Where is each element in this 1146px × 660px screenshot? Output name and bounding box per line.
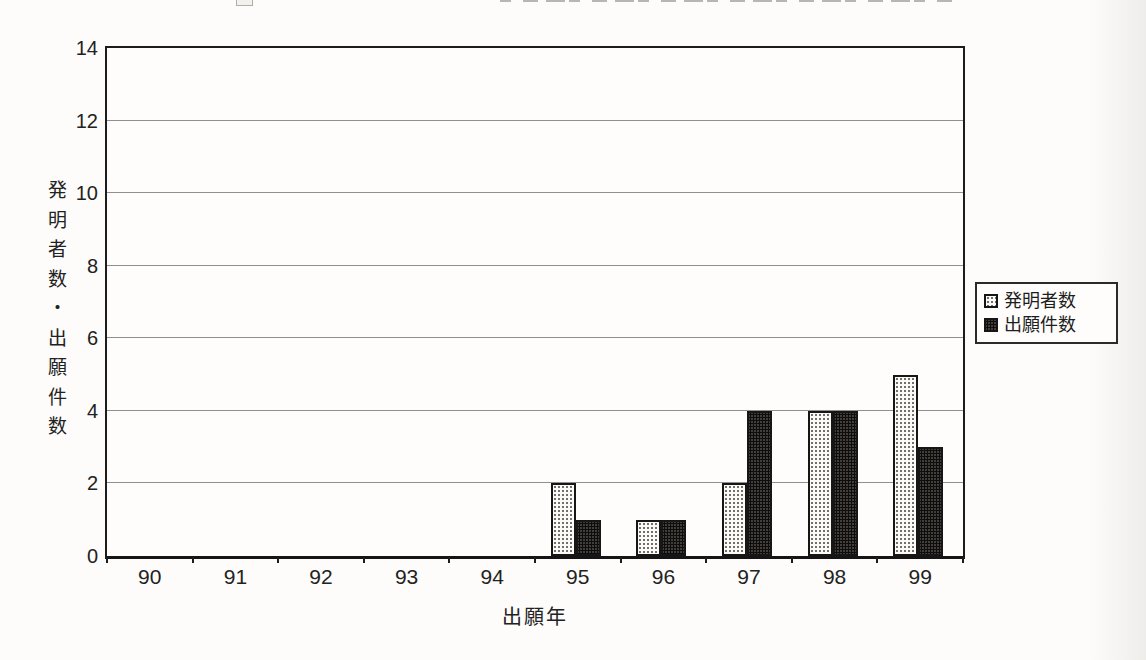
applications-count-bar: [747, 411, 772, 556]
applications-count-bar: [918, 447, 943, 556]
x-axis-tick-label: 90: [107, 564, 193, 590]
cropped-title-remnant-mark: [914, 0, 925, 2]
cropped-title-remnant-mark: [661, 0, 676, 2]
legend-label: 出願件数: [1004, 315, 1076, 335]
y-axis-title-char: 明: [44, 206, 70, 236]
cropped-title-remnant-mark: [684, 0, 703, 2]
x-axis-tick-label: 94: [449, 564, 535, 590]
x-axis-tick: [876, 557, 878, 563]
cropped-title-remnant-mark: [615, 0, 634, 2]
legend-label: 発明者数: [1004, 291, 1076, 311]
cropped-title-remnant-mark: [500, 0, 511, 2]
x-axis-tick: [620, 557, 622, 563]
y-axis-title-char: 願: [44, 353, 70, 383]
y-axis-title-char: ・: [44, 294, 70, 324]
x-axis-title: 出願年: [107, 601, 963, 630]
inventors-count-bar: [808, 411, 833, 556]
x-axis-tick-label: 95: [535, 564, 621, 590]
cropped-title-remnant-mark: [592, 0, 607, 2]
x-axis-tick-label: 99: [877, 564, 963, 590]
legend-item: 発明者数: [984, 291, 1109, 311]
y-axis-tick-label: 14: [40, 36, 98, 60]
gridline: [107, 337, 963, 338]
plot-area: [105, 46, 965, 559]
x-axis-tick: [192, 557, 194, 563]
cropped-title-remnant-mark: [776, 0, 787, 2]
y-axis-title-char: 出: [44, 324, 70, 354]
cropped-title-remnant-box: [236, 0, 253, 6]
x-axis-tick: [277, 557, 279, 563]
inventors-count-bar: [551, 483, 576, 556]
legend: 発明者数出願件数: [975, 282, 1118, 344]
legend-item: 出願件数: [984, 315, 1109, 335]
x-axis-tick-label: 93: [364, 564, 450, 590]
y-axis-title: 発明者数・出願件数: [44, 176, 70, 442]
cropped-title-remnant-mark: [707, 0, 718, 2]
y-axis-tick-label: 2: [40, 471, 98, 495]
x-axis-tick-label: 96: [621, 564, 707, 590]
x-axis-tick: [791, 557, 793, 563]
cropped-title-remnant-mark: [845, 0, 856, 2]
gridline: [107, 120, 963, 121]
x-axis-tick: [705, 557, 707, 563]
legend-swatch-applications: [984, 318, 998, 332]
x-axis-tick-label: 97: [706, 564, 792, 590]
cropped-title-remnant-mark: [868, 0, 883, 2]
y-axis-title-char: 数: [44, 412, 70, 442]
x-axis-tick-label: 92: [278, 564, 364, 590]
cropped-title-remnant-mark: [937, 0, 952, 2]
x-axis-tick: [448, 557, 450, 563]
gridline: [107, 265, 963, 266]
cropped-title-remnant-mark: [569, 0, 580, 2]
cropped-title-remnant-mark: [546, 0, 565, 2]
inventors-count-bar: [636, 520, 661, 556]
x-axis-tick: [363, 557, 365, 563]
x-axis-tick: [106, 557, 108, 563]
inventors-count-bar: [722, 483, 747, 556]
applications-count-bar: [833, 411, 858, 556]
x-axis-tick: [534, 557, 536, 563]
y-axis-tick-label: 12: [40, 109, 98, 133]
applications-count-bar: [576, 520, 601, 556]
cropped-title-remnant-mark: [799, 0, 814, 2]
cropped-title-remnant-mark: [891, 0, 910, 2]
inventors-count-bar: [893, 375, 918, 556]
y-axis-title-char: 数: [44, 265, 70, 295]
x-axis-tick: [962, 557, 964, 563]
cropped-title-remnant-mark: [822, 0, 841, 2]
cropped-title-remnant-mark: [730, 0, 745, 2]
y-axis-title-char: 者: [44, 235, 70, 265]
x-axis-tick-label: 91: [193, 564, 279, 590]
cropped-title-remnant-mark: [638, 0, 649, 2]
x-axis-tick-label: 98: [792, 564, 878, 590]
legend-swatch-inventors: [984, 294, 998, 308]
y-axis-tick-label: 0: [40, 544, 98, 568]
y-axis-title-char: 発: [44, 176, 70, 206]
y-axis-title-char: 件: [44, 383, 70, 413]
applications-count-bar: [661, 520, 686, 556]
cropped-title-remnant-mark: [753, 0, 772, 2]
cropped-title-remnant-mark: [523, 0, 538, 2]
figure-canvas: 02468101214 発明者数・出願件数 909192939495969798…: [0, 0, 1146, 660]
gridline: [107, 192, 963, 193]
